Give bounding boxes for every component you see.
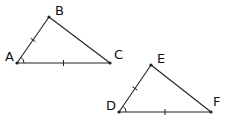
vertex-label-e: E <box>157 51 165 66</box>
triangle-abc: ABC <box>5 3 123 66</box>
tick-mark <box>31 38 36 41</box>
tick-mark <box>133 87 138 90</box>
vertex-point-b <box>47 15 50 18</box>
angle-mark-a <box>21 57 24 63</box>
vertex-point-d <box>117 110 120 113</box>
vertex-point-c <box>108 61 111 64</box>
vertex-point-e <box>149 63 152 66</box>
vertex-label-d: D <box>106 98 116 113</box>
vertex-label-c: C <box>114 47 123 62</box>
edge-bc <box>49 17 110 63</box>
vertex-point-f <box>209 110 212 113</box>
triangle-def: DEF <box>106 51 220 115</box>
edge-ef <box>151 65 211 112</box>
vertex-label-a: A <box>5 49 14 64</box>
vertex-label-b: B <box>55 3 64 18</box>
diagram-canvas: ABC DEF <box>0 0 226 121</box>
angle-mark-d <box>123 106 126 112</box>
vertex-point-a <box>15 61 18 64</box>
vertex-label-f: F <box>213 94 220 109</box>
